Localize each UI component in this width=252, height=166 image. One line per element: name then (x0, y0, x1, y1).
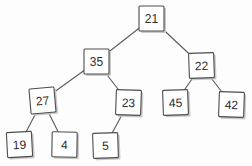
tree-node-21: 21 (139, 6, 166, 33)
node-value: 35 (90, 55, 104, 69)
node-value: 23 (122, 96, 136, 110)
node-value: 27 (35, 93, 50, 108)
tree-node-42: 42 (219, 92, 247, 120)
node-value: 45 (169, 96, 183, 110)
tree-node-23: 23 (116, 90, 144, 118)
node-value: 21 (145, 12, 159, 26)
tree-edges-layer (20, 19, 232, 146)
tree-canvas: 213522272345421945 (0, 0, 252, 166)
tree-node-27: 27 (29, 87, 58, 116)
node-value: 42 (225, 98, 239, 112)
node-value: 4 (61, 138, 68, 152)
tree-node-22: 22 (189, 53, 217, 81)
node-value: 5 (102, 139, 109, 153)
tree-node-35: 35 (84, 49, 111, 76)
node-value: 19 (12, 138, 26, 153)
binary-tree-diagram: 213522272345421945 (0, 0, 252, 166)
tree-node-19: 19 (6, 131, 34, 159)
tree-node-45: 45 (163, 90, 191, 118)
tree-node-4: 4 (52, 132, 79, 159)
tree-node-5: 5 (93, 133, 121, 161)
node-value: 22 (195, 59, 209, 73)
tree-nodes-layer: 213522272345421945 (6, 6, 246, 160)
